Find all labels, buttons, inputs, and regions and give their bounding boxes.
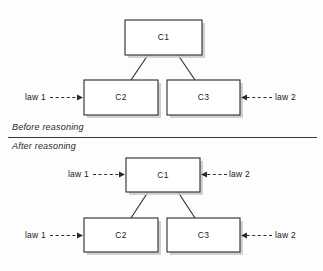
node-label: C3 <box>198 92 209 102</box>
connector-c1-c2 <box>131 55 148 80</box>
caption-before-reasoning: Before reasoning <box>12 122 84 132</box>
law-label: law 2 <box>229 169 250 179</box>
diagram-canvas: C1 C2 C3 law 1 law 2 <box>0 0 323 271</box>
arrow-head-icon <box>77 233 83 239</box>
node-c2-after[interactable]: C2 <box>84 218 161 255</box>
node-label: C2 <box>115 92 126 102</box>
node-c3-after[interactable]: C3 <box>167 218 243 255</box>
node-c1-after[interactable]: C1 <box>126 158 203 195</box>
after-connectors <box>131 192 195 218</box>
after-reasoning-diagram: C1 C2 C3 law 1 law 2 <box>25 158 296 255</box>
connector-c1-c2 <box>131 192 148 218</box>
law-label: law 1 <box>25 92 46 102</box>
node-c3-before[interactable]: C3 <box>167 80 243 118</box>
annotation-law1-c1-after: law 1 <box>68 169 125 179</box>
before-reasoning-diagram: C1 C2 C3 law 1 law 2 <box>25 20 296 118</box>
annotation-law2-c3-after: law 2 <box>241 230 296 240</box>
node-label: C3 <box>198 230 209 240</box>
law-label: law 2 <box>275 92 296 102</box>
law-label: law 1 <box>25 230 46 240</box>
arrow-head-icon <box>77 95 83 101</box>
node-label: C1 <box>157 170 168 180</box>
annotation-law2-c1-after: law 2 <box>201 169 250 179</box>
arrow-head-icon <box>119 172 125 178</box>
annotation-law1-c2-after: law 1 <box>25 230 83 240</box>
node-label: C1 <box>158 32 169 42</box>
node-label: C2 <box>115 230 126 240</box>
diagram-page: C1 C2 C3 law 1 law 2 <box>0 0 323 271</box>
law-label: law 2 <box>275 230 296 240</box>
law-label: law 1 <box>68 169 89 179</box>
connector-c1-c3 <box>178 192 195 218</box>
caption-after-reasoning: After reasoning <box>11 141 76 151</box>
annotation-law1-c2-before: law 1 <box>25 92 83 102</box>
connector-c1-c3 <box>178 55 195 80</box>
node-c1-before[interactable]: C1 <box>125 20 205 58</box>
annotation-law2-c3-before: law 2 <box>241 92 296 102</box>
before-connectors <box>131 55 195 80</box>
node-c2-before[interactable]: C2 <box>84 80 161 118</box>
